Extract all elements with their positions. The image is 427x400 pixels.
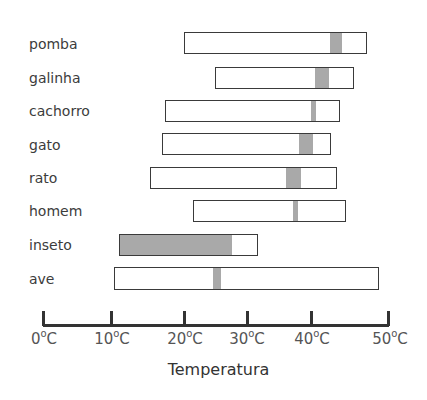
row-label-ave: ave <box>29 271 54 287</box>
shade-pomba <box>330 33 342 53</box>
x-axis-line <box>43 324 389 327</box>
bar-pomba <box>184 32 367 54</box>
shade-homem <box>293 201 298 221</box>
bar-inseto <box>119 234 258 256</box>
tick-label-50: 50oC <box>372 330 408 348</box>
bar-cachorro <box>165 100 340 122</box>
row-label-gato: gato <box>29 137 61 153</box>
tick-label-40: 40oC <box>294 330 330 348</box>
row-label-galinha: galinha <box>29 70 81 86</box>
bar-galinha <box>215 67 354 89</box>
row-label-cachorro: cachorro <box>29 103 90 119</box>
tick-50 <box>387 311 390 326</box>
tick-30 <box>246 311 249 326</box>
tick-label-0: 0oC <box>31 330 57 348</box>
row-label-rato: rato <box>29 170 57 186</box>
bar-ave <box>114 267 379 290</box>
row-label-homem: homem <box>29 203 82 219</box>
shade-ave <box>213 268 221 289</box>
x-axis-title: Temperatura <box>0 360 427 379</box>
shade-gato <box>299 134 313 154</box>
bar-rato <box>150 167 337 189</box>
tick-10 <box>110 311 113 326</box>
shade-cachorro <box>311 101 316 121</box>
row-label-inseto: inseto <box>29 237 72 253</box>
bar-homem <box>193 200 346 222</box>
shade-inseto <box>120 235 232 255</box>
tick-label-30: 30oC <box>229 330 265 348</box>
tick-40 <box>310 311 313 326</box>
shade-rato <box>286 168 301 188</box>
row-label-pomba: pomba <box>29 36 78 52</box>
shade-galinha <box>315 68 329 88</box>
tick-label-10: 10oC <box>94 330 130 348</box>
tick-20 <box>183 311 186 326</box>
bar-gato <box>162 133 331 155</box>
tick-0 <box>42 311 45 326</box>
tick-label-20: 20oC <box>167 330 203 348</box>
